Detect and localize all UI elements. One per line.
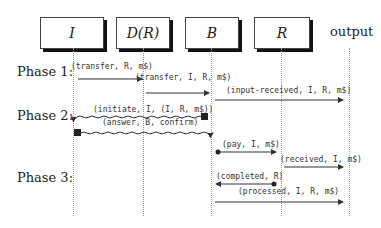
arrows-layer	[0, 0, 381, 228]
